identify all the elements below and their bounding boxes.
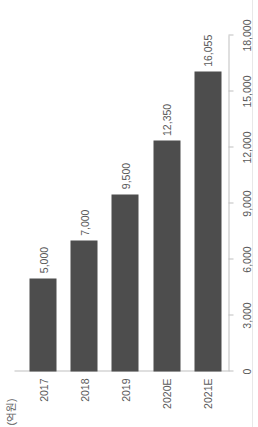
value-axis-tick-label: 18,000 (240, 19, 252, 51)
category-axis-label: 2020E (160, 378, 172, 408)
value-axis-tick (228, 90, 233, 91)
bar-row: 16,0552021E (187, 35, 228, 371)
bar-value-label: 9,500 (119, 162, 131, 193)
category-axis-label: 2021E (201, 378, 213, 408)
value-axis-tick-label: 9,000 (240, 190, 252, 216)
plot-area: 03,0006,0009,00012,00015,00018,000 5,000… (22, 35, 228, 371)
bar-value-label: 16,055 (201, 34, 213, 71)
bar-value-label: 12,350 (160, 103, 172, 140)
chart-screenshot: (억원) 03,0006,0009,00012,00015,00018,000 … (0, 0, 258, 427)
value-axis-tick-label: 0 (240, 368, 252, 374)
rotated-chart-container: (억원) 03,0006,0009,00012,00015,00018,000 … (0, 0, 258, 427)
chart-area: (억원) 03,0006,0009,00012,00015,00018,000 … (0, 0, 258, 427)
axis-unit-label: (억원) (2, 398, 17, 425)
bar (194, 71, 221, 371)
value-axis-tick (228, 34, 233, 35)
value-axis-tick (228, 258, 233, 259)
category-axis-label: 2018 (78, 378, 90, 401)
value-axis-tick-label: 15,000 (240, 75, 252, 107)
bar (111, 194, 138, 371)
bar-row: 9,5002019 (104, 35, 145, 371)
value-axis-tick-label: 6,000 (240, 246, 252, 272)
category-axis-label: 2019 (119, 378, 131, 401)
bar-value-label: 7,000 (78, 209, 90, 240)
bar-row: 12,3502020E (146, 35, 187, 371)
bar-value-label: 5,000 (37, 246, 49, 277)
value-axis-tick (228, 370, 233, 371)
bar (70, 240, 97, 371)
value-axis-tick (228, 202, 233, 203)
value-axis-tick (228, 146, 233, 147)
bar (153, 140, 180, 371)
category-axis-label: 2017 (37, 378, 49, 401)
bar-row: 7,0002018 (63, 35, 104, 371)
bar (29, 278, 56, 371)
value-axis-tick-label: 3,000 (240, 302, 252, 328)
value-axis-tick (228, 314, 233, 315)
bar-row: 5,0002017 (22, 35, 63, 371)
value-axis-tick-label: 12,000 (240, 131, 252, 163)
